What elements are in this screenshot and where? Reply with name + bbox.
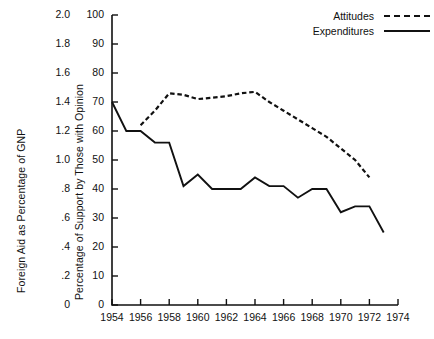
- y-axis-left-tick-label: .6: [36, 211, 70, 223]
- y-axis-right-tick-label: 90: [78, 37, 104, 49]
- y-axis-left-tick-label: 2.0: [36, 8, 70, 20]
- y-axis-right-tick-label: 0: [78, 298, 104, 310]
- y-axis-right-tick-label: 40: [78, 182, 104, 194]
- y-axis-left-tick-label: .4: [36, 240, 70, 252]
- y-axis-left-tick-label: 1.4: [36, 95, 70, 107]
- y-axis-right-tick-label: 50: [78, 153, 104, 165]
- y-axis-left-tick-label: 1.0: [36, 153, 70, 165]
- chart-container: Foreign Aid as Percentage of GNP Percent…: [0, 0, 434, 339]
- y-axis-right-tick-label: 30: [78, 211, 104, 223]
- y-axis-right-tick-label: 80: [78, 66, 104, 78]
- y-axis-right-tick-label: 10: [78, 269, 104, 281]
- y-axis-left-tick-label: .8: [36, 182, 70, 194]
- plot-area: [0, 0, 434, 339]
- y-axis-right-tick-label: 20: [78, 240, 104, 252]
- x-axis-tick-label: 1974: [378, 311, 418, 323]
- series-line-expenditures: [112, 102, 384, 233]
- y-axis-left-tick-label: 1.6: [36, 66, 70, 78]
- y-axis-left-tick-label: 0: [36, 298, 70, 310]
- y-axis-right-tick-label: 70: [78, 95, 104, 107]
- y-axis-left-tick-label: .2: [36, 269, 70, 281]
- y-axis-left-tick-label: 1.2: [36, 124, 70, 136]
- series-line-attitudes: [141, 92, 370, 178]
- y-axis-left-tick-label: 1.8: [36, 37, 70, 49]
- y-axis-right-tick-label: 100: [78, 8, 104, 20]
- y-axis-right-tick-label: 60: [78, 124, 104, 136]
